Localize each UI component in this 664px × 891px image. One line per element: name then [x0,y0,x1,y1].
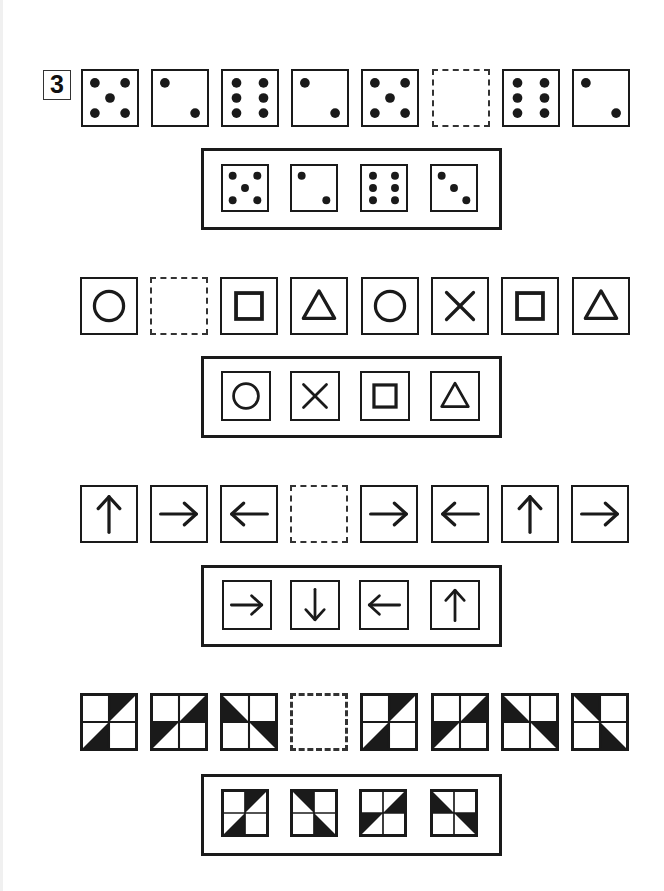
die-6-icon [504,71,558,125]
sequence-pinwheel-tiles-item-6 [431,693,489,751]
answer-option-pinwheel-tiles-2[interactable] [290,789,338,837]
die-2-icon [153,71,207,125]
sequence-shapes-item-5 [361,277,419,335]
sequence-pinwheel-tiles-item-2 [150,693,208,751]
arrow-right-icon [152,487,206,541]
square-icon [222,279,276,333]
sequence-pinwheel-tiles-item-1 [80,693,138,751]
answer-option-dice-1[interactable] [221,164,269,212]
die-6-icon [223,71,277,125]
die-6-icon [362,166,406,210]
arrow-right-icon [573,487,627,541]
sequence-dice-item-3 [221,69,279,127]
sequence-dice-item-4 [291,69,349,127]
answer-option-dice-4[interactable] [430,164,478,212]
arrow-right-icon [224,582,270,628]
arrow-down-icon [292,582,338,628]
tile-c-icon [433,792,475,834]
sequence-pinwheel-tiles-item-5 [360,693,418,751]
die-5-icon [223,166,267,210]
sequence-arrows-item-6 [431,485,489,543]
arrow-up-icon [82,487,136,541]
sequence-dice-item-7 [502,69,560,127]
answer-option-dice-3[interactable] [360,164,408,212]
sequence-arrows-item-4[interactable] [290,485,348,543]
answer-option-pinwheel-tiles-3[interactable] [359,789,407,837]
die-2-icon [293,71,347,125]
cross-icon [433,279,487,333]
sequence-arrows-item-2 [150,485,208,543]
die-5-icon [363,71,417,125]
arrow-up-icon [432,582,478,628]
sequence-shapes-item-1 [80,277,138,335]
circle-icon [82,279,136,333]
sequence-arrows-item-8 [571,485,629,543]
sequence-pinwheel-tiles-item-7 [501,693,559,751]
tile-c-icon [223,696,275,748]
answer-option-shapes-4[interactable] [430,371,480,421]
answer-option-shapes-3[interactable] [360,371,410,421]
sequence-arrows-item-3 [220,485,278,543]
sequence-dice-item-8 [572,69,630,127]
sequence-shapes-item-8 [572,277,630,335]
die-2-icon [574,71,628,125]
tile-c-icon [504,696,556,748]
arrow-left-icon [433,487,487,541]
sequence-shapes-item-4 [290,277,348,335]
answer-option-dice-2[interactable] [290,164,338,212]
sequence-shapes-item-2[interactable] [150,277,208,335]
page-edge-shadow [0,0,3,891]
answer-option-arrows-3[interactable] [359,580,409,630]
sequence-pinwheel-tiles-item-4[interactable] [290,693,348,751]
tile-a-icon [363,696,415,748]
die-5-icon [83,71,137,125]
sequence-shapes-item-6 [431,277,489,335]
sequence-pinwheel-tiles-item-8 [571,693,629,751]
circle-icon [223,373,269,419]
tile-d-icon [574,696,626,748]
answer-option-pinwheel-tiles-1[interactable] [221,789,269,837]
answer-option-shapes-1[interactable] [221,371,271,421]
triangle-icon [432,373,478,419]
arrow-up-icon [503,487,557,541]
sequence-dice-item-1 [81,69,139,127]
square-icon [362,373,408,419]
circle-icon [363,279,417,333]
tile-b-icon [362,792,404,834]
problem-number-badge: 3 [43,70,71,100]
answer-option-pinwheel-tiles-4[interactable] [430,789,478,837]
answer-option-shapes-2[interactable] [290,371,340,421]
triangle-icon [574,279,628,333]
arrow-right-icon [362,487,416,541]
tile-d-icon [293,792,335,834]
triangle-icon [292,279,346,333]
tile-a-icon [83,696,135,748]
tile-b-icon [434,696,486,748]
sequence-shapes-item-3 [220,277,278,335]
answer-option-arrows-1[interactable] [222,580,272,630]
die-2-icon [292,166,336,210]
sequence-dice-item-6[interactable] [432,69,490,127]
cross-icon [292,373,338,419]
arrow-left-icon [222,487,276,541]
tile-b-icon [153,696,205,748]
sequence-arrows-item-7 [501,485,559,543]
answer-option-arrows-2[interactable] [290,580,340,630]
sequence-arrows-item-1 [80,485,138,543]
sequence-pinwheel-tiles-item-3 [220,693,278,751]
sequence-arrows-item-5 [360,485,418,543]
arrow-left-icon [361,582,407,628]
sequence-dice-item-2 [151,69,209,127]
sequence-dice-item-5 [361,69,419,127]
die-3-icon [432,166,476,210]
tile-a-icon [224,792,266,834]
answer-option-arrows-4[interactable] [430,580,480,630]
square-icon [503,279,557,333]
sequence-shapes-item-7 [501,277,559,335]
